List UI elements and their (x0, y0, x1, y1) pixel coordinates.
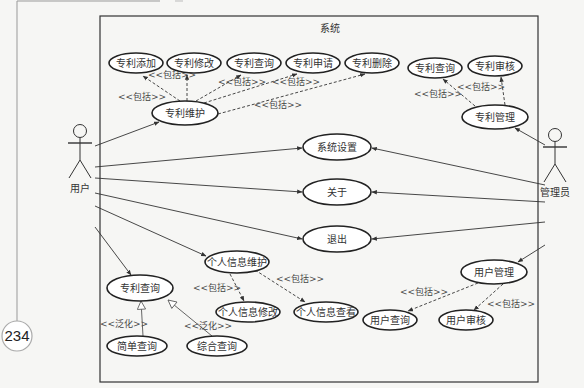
use-case-label: 专利维护 (165, 107, 205, 119)
use-case-label: 关于 (327, 186, 347, 198)
use-case-label: 简单查询 (117, 340, 157, 352)
actor-label: 管理员 (540, 186, 570, 198)
use-case-label: 退出 (327, 233, 347, 245)
use-case-exit[interactable]: 退出 (303, 226, 371, 252)
association-line (372, 148, 545, 185)
page-number: 234 (4, 327, 29, 344)
use-case-maintain[interactable]: 专利维护 (152, 101, 218, 125)
use-case-simple_query[interactable]: 简单查询 (107, 336, 167, 356)
use-case-delete[interactable]: 专利删除 (345, 53, 399, 73)
use-case-patent_mgmt[interactable]: 专利管理 (462, 105, 528, 129)
use-case-label: 专利管理 (475, 111, 515, 123)
use-case-modify[interactable]: 专利修改 (167, 53, 221, 73)
actor-admin[interactable]: 管理员 (540, 129, 570, 199)
include-label: <<包括>> (193, 282, 241, 293)
use-case-audit[interactable]: 专利审核 (468, 56, 522, 76)
use-case-personal_view[interactable]: 个人信息查看 (294, 302, 358, 322)
use-case-personal[interactable]: 个人信息维护 (205, 251, 269, 273)
use-case-query2[interactable]: 专利查询 (408, 58, 462, 78)
actor-leg-icon (544, 164, 555, 182)
use-cases: 专利添加专利修改专利查询专利申请专利删除专利维护专利查询专利审核专利管理系统设置… (107, 53, 528, 356)
use-case-query1[interactable]: 专利查询 (227, 53, 281, 73)
use-case-label: 专利申请 (293, 57, 333, 69)
actor-leg-icon (555, 164, 566, 182)
association-line (515, 128, 545, 145)
use-case-apply[interactable]: 专利申请 (286, 53, 340, 73)
include-label: <<包括>> (414, 88, 462, 99)
include-label: <<包括>> (276, 273, 324, 284)
use-case-user_query[interactable]: 用户查询 (363, 310, 417, 330)
association-line (95, 178, 302, 192)
use-case-label: 专利添加 (116, 57, 156, 69)
use-case-label: 专利查询 (120, 282, 160, 294)
use-case-label: 系统设置 (317, 141, 357, 153)
generalization-label: <<泛化>> (184, 320, 232, 331)
actor-leg-icon (80, 160, 91, 178)
use-case-patent_query[interactable]: 专利查询 (107, 275, 173, 301)
use-case-label: 用户管理 (474, 266, 514, 278)
use-case-label: 综合查询 (197, 340, 237, 352)
include-label: <<包括>> (118, 91, 166, 102)
association-line (95, 193, 302, 239)
association-line (95, 148, 302, 167)
use-case-user_mgmt[interactable]: 用户管理 (461, 260, 527, 284)
include-label: <<包括>> (272, 76, 320, 87)
association-line (372, 192, 545, 202)
actor-leg-icon (69, 160, 80, 178)
include-label: <<包括>> (254, 99, 302, 110)
actor-head-icon (74, 125, 87, 138)
use-case-settings[interactable]: 系统设置 (303, 134, 371, 160)
association-line (372, 222, 545, 239)
association-line (95, 122, 159, 146)
use-case-label: 专利审核 (475, 60, 515, 72)
generalization-relationships: <<泛化>><<泛化>> (100, 300, 232, 336)
use-case-label: 用户审核 (446, 314, 486, 326)
association-line (518, 245, 545, 262)
use-case-add[interactable]: 专利添加 (109, 53, 163, 73)
use-case-label: 用户查询 (370, 314, 410, 326)
use-case-diagram: 234 系统 <<包括>><<包括>><<包括>><<包括>><<包括>><<包… (0, 0, 584, 388)
include-label: <<包括>> (218, 76, 266, 87)
system-title: 系统 (320, 22, 340, 34)
include-label: <<包括>> (400, 286, 448, 297)
include-label: <<包括>> (457, 81, 505, 92)
use-case-label: 个人信息查看 (296, 306, 356, 318)
use-case-label: 专利查询 (234, 57, 274, 69)
actor-user[interactable]: 用户 (68, 125, 92, 195)
actor-head-icon (549, 129, 562, 142)
use-case-about[interactable]: 关于 (303, 179, 371, 205)
use-case-user_audit[interactable]: 用户审核 (439, 310, 493, 330)
use-case-label: 专利修改 (174, 57, 214, 69)
use-case-combined_query[interactable]: 综合查询 (187, 336, 247, 356)
use-case-label: 个人信息修改 (218, 306, 278, 318)
include-label: <<包括>> (487, 298, 535, 309)
use-case-personal_edit[interactable]: 个人信息修改 (216, 302, 280, 322)
generalization-label: <<泛化>> (100, 318, 148, 329)
use-case-label: 专利查询 (415, 62, 455, 74)
use-case-label: 专利删除 (352, 57, 392, 69)
actor-label: 用户 (70, 182, 90, 194)
use-case-label: 个人信息维护 (207, 256, 267, 268)
page-number-badge: 234 (2, 321, 32, 351)
